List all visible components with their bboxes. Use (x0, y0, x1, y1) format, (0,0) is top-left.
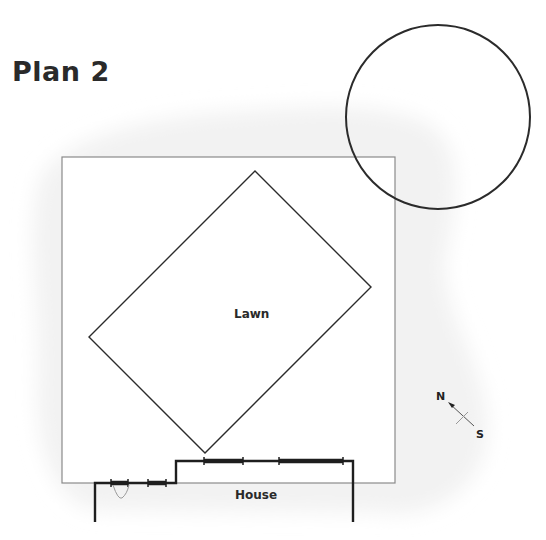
compass-south: S (476, 428, 484, 441)
garden-plan: Lawn House N S (0, 0, 546, 540)
house-label: House (235, 488, 277, 502)
lawn-label: Lawn (234, 307, 269, 321)
compass-north: N (436, 390, 445, 403)
